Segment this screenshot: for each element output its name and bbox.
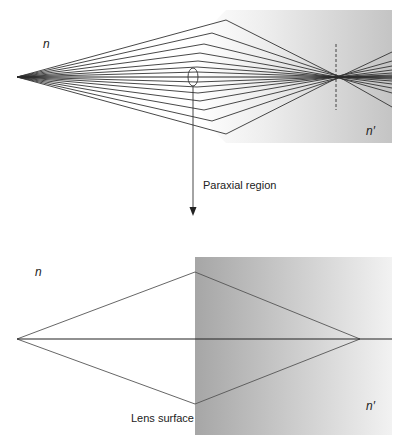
arrow-down-icon — [190, 207, 197, 216]
lens-surface-label: Lens surface — [131, 412, 194, 424]
optics-figure — [0, 0, 407, 435]
top-medium-n-prime-label: n′ — [366, 124, 375, 138]
paraxial-region-label: Paraxial region — [203, 179, 276, 191]
top-medium-n-label: n — [43, 37, 50, 51]
bottom-medium-n-prime-label: n′ — [366, 399, 375, 413]
bottom-medium-n-label: n — [35, 265, 42, 279]
